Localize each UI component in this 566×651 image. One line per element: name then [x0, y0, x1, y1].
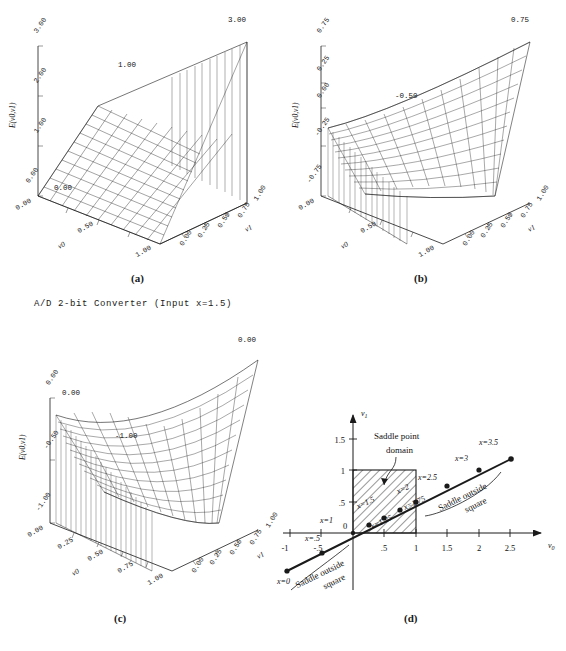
- tick-d-x-25: 2.5: [505, 543, 516, 553]
- tick-d-y-15: 1.5: [334, 435, 345, 445]
- surface-mesh-c: [56, 360, 258, 523]
- panel-d: v0 v1 -1 -.5 0 .5 1 1.5 2 2.5 .5 1 1.5 x…: [283, 320, 566, 600]
- caption-a: (a): [131, 272, 144, 284]
- label-d-x25: x=2.5: [417, 473, 437, 482]
- corner-label-b-left: -0.50: [395, 92, 418, 100]
- axis-label-c-z: E(v0,v1): [18, 434, 27, 460]
- axis-label-d-x: v0: [548, 541, 555, 551]
- tick-d-x-neg05: -.5: [313, 543, 322, 553]
- tick-d-x-neg1: -1: [281, 543, 288, 553]
- point-x3: [476, 467, 481, 472]
- axis-label-b-z: E(v0,v1): [291, 102, 300, 128]
- corner-label-c-right: 0.00: [238, 336, 257, 344]
- figure-title: A/D 2-bit Converter (Input x=1.5): [34, 299, 232, 309]
- panel-c: 0.00 -1.00 0.00 0.00 -0.50 -1.00 E(v0,v1…: [0, 320, 283, 595]
- corner-label-b-right: 0.75: [511, 16, 530, 24]
- point-x35: [508, 456, 514, 462]
- tick-d-y-1: 1: [341, 466, 345, 476]
- annotation-saddle-point-domain-line2: domain: [386, 445, 413, 455]
- tick-d-x-1: 1: [414, 543, 418, 553]
- figure-root: 3.00 1.00 0.00 3.00 2.00 1.00 0.00 E(v0,…: [0, 0, 566, 651]
- panel-b: 0.75 -0.50 0.75 0.25 0.00 -0.25 -0.75 E(…: [283, 0, 566, 270]
- point-x0: [284, 568, 289, 573]
- tick-d-x-2: 2: [477, 543, 481, 553]
- surface-mesh-a: [38, 42, 247, 244]
- caption-b: (b): [414, 272, 427, 284]
- corner-label-c-left: -1.00: [115, 432, 138, 440]
- surface-mesh-b: [328, 42, 530, 198]
- axis-label-d-y: v1: [361, 409, 368, 419]
- annotation-saddle-outside-lower: Saddle outside square: [294, 558, 351, 602]
- panel-a: 3.00 1.00 0.00 3.00 2.00 1.00 0.00 E(v0,…: [0, 0, 283, 270]
- corner-label-a-left: 1.00: [118, 61, 137, 69]
- label-d-x0: x=0: [276, 577, 290, 586]
- panel-c-plot: 0.00 -1.00 0.00: [0, 320, 283, 595]
- tick-d-x-0: 0: [343, 521, 347, 531]
- label-d-x05: x=.5: [304, 534, 320, 543]
- label-d-x35: x=3.5: [478, 438, 498, 447]
- panel-d-plot: v0 v1 -1 -.5 0 .5 1 1.5 2 2.5 .5 1 1.5 x…: [283, 320, 566, 600]
- tick-d-x-15: 1.5: [442, 543, 453, 553]
- corner-label-a-right: 3.00: [228, 16, 247, 24]
- caption-d: (d): [404, 612, 417, 624]
- corner-label-a-near: 0.00: [54, 184, 73, 192]
- panel-b-plot: 0.75 -0.50: [283, 0, 566, 270]
- point-x1: [351, 531, 355, 535]
- tick-d-x-05: .5: [381, 543, 387, 553]
- label-d-x1: x=1: [319, 516, 333, 525]
- point-x175: [397, 507, 402, 512]
- axis-label-a-z: E(v0,v1): [8, 102, 17, 128]
- panel-a-plot: 3.00 1.00 0.00: [0, 0, 283, 270]
- corner-label-c-top: 0.00: [62, 389, 81, 397]
- label-d-x3: x=3: [454, 454, 468, 463]
- annotation-saddle-point-domain-line1: Saddle point: [374, 431, 420, 441]
- caption-c: (c): [114, 612, 126, 624]
- tick-d-y-05: .5: [339, 498, 345, 508]
- point-x25: [444, 483, 449, 488]
